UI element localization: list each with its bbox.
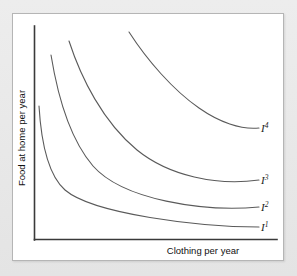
curve-label-i3: I3: [260, 173, 269, 187]
y-axis-title: Food at home per year: [16, 90, 27, 186]
figure-root: I4 I3 I2 I1 Food at home per year Clothi…: [0, 0, 297, 276]
chart-panel: I4 I3 I2 I1 Food at home per year Clothi…: [12, 13, 284, 261]
curve-label-i4: I4: [260, 121, 269, 135]
x-axis-title: Clothing per year: [167, 245, 239, 256]
indifference-curve-chart: I4 I3 I2 I1 Food at home per year Clothi…: [13, 14, 285, 262]
curve-label-i2-exponent: 2: [265, 200, 269, 209]
curve-label-i1: I1: [260, 220, 268, 234]
curve-i3: [69, 41, 259, 182]
curve-label-i2: I2: [260, 200, 269, 214]
curve-label-i4-exponent: 4: [265, 121, 269, 130]
curve-i4: [129, 32, 259, 128]
curve-i1: [39, 106, 259, 227]
curve-label-i1-exponent: 1: [265, 220, 269, 229]
curve-i2: [51, 55, 259, 208]
curve-label-i3-exponent: 3: [264, 173, 269, 182]
